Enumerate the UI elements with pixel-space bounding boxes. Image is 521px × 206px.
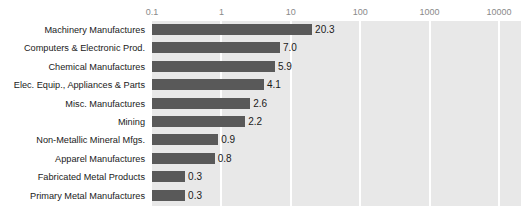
bar-row[interactable]: 0.3 [152,168,521,186]
bar[interactable] [152,116,245,127]
bar-value-label: 0.3 [185,168,202,186]
bar-value-label: 4.1 [264,76,281,94]
x-tick-label: 100 [353,6,368,19]
bar-row[interactable]: 0.8 [152,150,521,168]
x-tick-label: 1 [219,6,224,19]
category-label: Fabricated Metal Products [38,168,145,186]
x-tick-label: 10 [286,6,296,19]
x-tick-label: 10000 [486,6,511,19]
bar-value-label: 2.2 [245,113,262,131]
category-axis-labels: Machinery ManufacturesComputers & Electr… [0,21,149,206]
bar-value-label: 7.0 [280,39,297,57]
category-label: Mining [118,113,145,131]
category-label: Non-Metallic Mineral Mfgs. [36,131,145,149]
category-label: Misc. Manufactures [65,95,145,113]
bar[interactable] [152,42,280,53]
bar-value-label: 2.6 [250,95,267,113]
category-label: Elec. Equip., Appliances & Parts [14,76,145,94]
bar[interactable] [152,79,264,90]
bar-value-label: 0.3 [185,187,202,205]
bar[interactable] [152,153,215,164]
bar-row[interactable]: 2.6 [152,95,521,113]
category-label: Machinery Manufactures [44,21,145,39]
bar-row[interactable]: 5.9 [152,58,521,76]
chart-title-remnant [56,0,486,3]
category-label: Primary Metal Manufactures [30,187,145,205]
category-label: Apparel Manufactures [55,150,145,168]
category-label: Chemical Manufactures [48,58,145,76]
bar-value-label: 0.9 [218,131,235,149]
bar[interactable] [152,61,275,72]
bar-row[interactable]: 0.9 [152,131,521,149]
bar[interactable] [152,98,250,109]
bar-value-label: 0.8 [215,150,232,168]
x-axis-tick-labels: 0.1110100100010000 [0,6,521,19]
bar-row[interactable]: 4.1 [152,76,521,94]
bar-row[interactable]: 2.2 [152,113,521,131]
bar-value-label: 5.9 [275,58,292,76]
bar[interactable] [152,190,185,201]
category-label: Computers & Electronic Prod. [24,39,145,57]
bar-value-label: 20.3 [312,21,334,39]
x-tick-label: 1000 [420,6,440,19]
x-tick-label: 0.1 [146,6,159,19]
bar-row[interactable]: 20.3 [152,21,521,39]
bar-row[interactable]: 7.0 [152,39,521,57]
bar[interactable] [152,134,218,145]
plot-area: 20.37.05.94.12.62.20.90.80.30.3 [152,21,521,206]
bar[interactable] [152,171,185,182]
bar[interactable] [152,24,312,35]
bar-row[interactable]: 0.3 [152,187,521,205]
bar-chart: 0.1110100100010000 Machinery Manufacture… [0,0,521,206]
